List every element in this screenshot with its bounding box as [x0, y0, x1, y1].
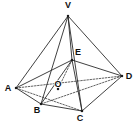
- vertex-point-a: [15, 87, 18, 90]
- edge-b-c: [41, 104, 82, 111]
- vertex-label-v: V: [65, 0, 71, 10]
- edge-a-b: [16, 88, 41, 104]
- edge-a-e: [16, 60, 72, 88]
- vertex-point-c: [81, 110, 84, 113]
- edge-c-e: [72, 60, 82, 111]
- vertex-label-o: O: [54, 79, 61, 89]
- vertex-label-a: A: [5, 83, 12, 93]
- geometry-figure: VEABCDO: [0, 0, 137, 125]
- vertex-label-e: E: [75, 47, 81, 57]
- vertex-label-c: C: [77, 113, 84, 123]
- edge-c-d: [82, 76, 122, 111]
- vertex-point-v: [67, 15, 70, 18]
- edge-a-o-d: [16, 76, 122, 88]
- vertex-label-b: B: [34, 105, 41, 115]
- vertex-point-d: [121, 75, 124, 78]
- vertex-label-d: D: [126, 71, 133, 81]
- figure-canvas: VEABCDO: [0, 0, 137, 125]
- vertex-point-e: [71, 59, 74, 62]
- edge-v-b: [41, 16, 68, 104]
- edge-a-c: [16, 88, 82, 111]
